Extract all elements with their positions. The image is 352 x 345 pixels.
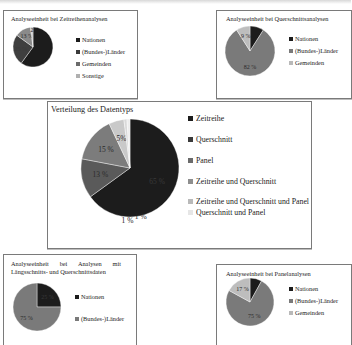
slice-label: 17 % bbox=[236, 286, 249, 292]
legend-item: Querschnitt und Panel bbox=[188, 208, 310, 217]
legend-swatch bbox=[289, 49, 293, 53]
pie-chart: 75 %17 % bbox=[226, 278, 274, 326]
legend-swatch bbox=[188, 137, 193, 142]
legend-swatch bbox=[76, 50, 80, 54]
slice-label: 75 % bbox=[248, 313, 261, 319]
slice-label: 75 % bbox=[20, 315, 32, 321]
slice-label: 25 % bbox=[41, 294, 54, 300]
legend-item: (Bundes-)Länder bbox=[75, 315, 124, 322]
legend-swatch bbox=[289, 311, 293, 315]
chart-box-laengs-querschnitt: Analyseeinheit bei Analysen mit Längssch… bbox=[3, 254, 137, 345]
legend-swatch bbox=[76, 38, 80, 42]
legend-swatch bbox=[289, 299, 293, 303]
legend-swatch bbox=[188, 179, 193, 184]
slice-label: 13 % bbox=[20, 33, 33, 39]
legend-item: Zeitreihe und Querschnitt bbox=[188, 177, 310, 186]
legend-item: (Bundes-)Länder bbox=[76, 48, 125, 55]
chart-legend: Nationen (Bundes-)Länder bbox=[75, 293, 124, 322]
legend-item: (Bundes-)Länder bbox=[289, 47, 338, 54]
legend-swatch bbox=[76, 74, 80, 78]
chart-legend: Nationen (Bundes-)Länder Gemeinden bbox=[289, 285, 338, 316]
legend-item: Panel bbox=[188, 156, 310, 165]
chart-box-querschnittsanalysen: Analyseeinheit bei Querschnittsanalysen … bbox=[216, 10, 352, 99]
legend-swatch bbox=[188, 158, 193, 163]
legend-item: Nationen bbox=[289, 35, 338, 42]
legend-swatch bbox=[289, 61, 293, 65]
legend-item: Zeitreihe bbox=[188, 114, 310, 123]
slice-label: 25 % bbox=[15, 46, 28, 52]
pie-chart: 82 %9 % bbox=[225, 26, 275, 76]
legend-item: Nationen bbox=[76, 36, 125, 43]
legend-swatch bbox=[188, 199, 193, 204]
legend-swatch bbox=[289, 37, 293, 41]
legend-item: Gemeinden bbox=[289, 309, 338, 316]
slice-label-outside: 1 % bbox=[135, 212, 147, 221]
chart-title: Analyseeinheit bei Zeitreihenanalysen bbox=[11, 15, 108, 23]
chart-box-datentyp: Verteilung des Datentyps 65 %13 %15 %5%1… bbox=[47, 101, 312, 249]
legend-swatch bbox=[75, 317, 79, 321]
legend-swatch bbox=[188, 116, 193, 121]
slice-label-outside: 1 % bbox=[122, 216, 134, 225]
legend-item: Sonstige bbox=[76, 72, 125, 79]
page-top-edge bbox=[0, 0, 351, 4]
chart-title: Analyseeinheit bei Panelanalysen bbox=[226, 270, 311, 278]
legend-swatch bbox=[75, 295, 79, 299]
chart-legend: Zeitreihe Querschnitt Panel Zeitreihe un… bbox=[188, 114, 310, 217]
slice-label: 9 % bbox=[241, 33, 251, 39]
chart-title: Analyseeinheit bei Querschnittsanalysen bbox=[226, 15, 328, 23]
legend-item: Gemeinden bbox=[76, 60, 125, 67]
legend-item: Zeitreihe und Querschnitt und Panel bbox=[188, 197, 310, 206]
slice-label: 15 % bbox=[98, 145, 114, 154]
slice-label: 13 % bbox=[93, 170, 109, 179]
legend-item: Nationen bbox=[289, 285, 338, 292]
chart-legend: Nationen (Bundes-)Länder Gemeinden Sonst… bbox=[76, 36, 125, 79]
legend-item: Querschnitt bbox=[188, 135, 310, 144]
chart-box-panelanalysen: Analyseeinheit bei Panelanalysen 75 %17 … bbox=[216, 264, 352, 345]
chart-title: Analyseeinheit bei Analysen mit Längssch… bbox=[11, 260, 121, 275]
legend-item: Gemeinden bbox=[289, 59, 338, 66]
chart-title: Verteilung des Datentyps bbox=[51, 106, 133, 114]
legend-item: (Bundes-)Länder bbox=[289, 297, 338, 304]
slice-label: 82 % bbox=[244, 64, 257, 70]
slice-label: 65 % bbox=[149, 177, 165, 186]
slice-label: 2 bbox=[30, 27, 33, 33]
slice-label: 5% bbox=[117, 134, 127, 143]
chart-box-zeitreihenanalysen: Analyseeinheit bei Zeitreihenanalysen 25… bbox=[3, 10, 138, 99]
pie-chart: 25 %13 %2 bbox=[13, 27, 55, 69]
legend-swatch bbox=[76, 62, 80, 66]
legend-swatch bbox=[289, 287, 293, 291]
pie-chart: 65 %13 %15 %5%1 %1 % bbox=[81, 119, 179, 217]
legend-item: Nationen bbox=[75, 293, 124, 300]
chart-legend: Nationen (Bundes-)Länder Gemeinden bbox=[289, 35, 338, 66]
pie-chart: 25 %75 % bbox=[13, 283, 61, 331]
legend-swatch bbox=[188, 210, 193, 215]
